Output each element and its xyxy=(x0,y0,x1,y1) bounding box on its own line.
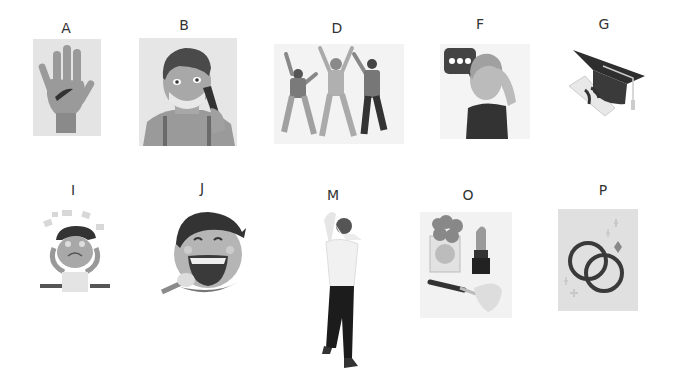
label-b: B xyxy=(179,18,189,32)
wedding-rings-image[interactable] xyxy=(558,209,638,311)
speech-bubble-person-icon xyxy=(440,44,530,139)
stressed-person-icon xyxy=(38,208,112,294)
palm-injury-image[interactable] xyxy=(33,39,101,136)
man-shaving-icon xyxy=(139,38,237,146)
man-holding-head-image[interactable] xyxy=(310,208,370,374)
graduation-cap-icon xyxy=(565,44,655,124)
label-f: F xyxy=(476,17,484,31)
label-d: D xyxy=(332,21,343,35)
label-p: P xyxy=(599,183,607,197)
man-shaving-image[interactable] xyxy=(139,38,237,146)
cosmetics-icon xyxy=(420,212,512,318)
graduation-image[interactable] xyxy=(565,44,655,124)
label-a: A xyxy=(61,21,71,35)
dancing-icon xyxy=(274,44,404,144)
stressed-person-image[interactable] xyxy=(38,208,112,294)
boy-eating-image[interactable] xyxy=(158,208,250,296)
cosmetics-image[interactable] xyxy=(420,212,512,318)
man-back-view-icon xyxy=(310,208,370,374)
rings-icon xyxy=(558,209,638,311)
dancing-people-image[interactable] xyxy=(274,44,404,144)
label-i: I xyxy=(71,183,75,197)
confused-woman-image[interactable] xyxy=(440,44,530,139)
label-j: J xyxy=(200,181,204,195)
label-g: G xyxy=(599,17,610,31)
label-o: O xyxy=(462,188,473,202)
label-m: M xyxy=(327,188,339,202)
hand-icon xyxy=(33,39,101,136)
boy-eating-icon xyxy=(158,208,250,296)
